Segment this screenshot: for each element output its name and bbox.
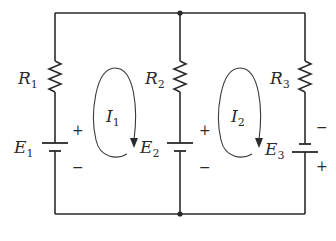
e3-minus-sign: −	[316, 119, 328, 135]
label-r1: R1	[17, 68, 38, 91]
loop-current-i2-arrow-icon	[219, 68, 263, 157]
resistor-r3-icon	[299, 61, 311, 92]
top-junction-dot	[177, 10, 182, 15]
label-r2: R2	[144, 68, 165, 91]
label-i1: I1	[105, 106, 120, 129]
battery-e3-icon	[292, 144, 318, 152]
label-i2: I2	[230, 106, 245, 129]
e2-plus-sign: +	[199, 122, 211, 138]
bottom-junction-dot	[177, 211, 182, 216]
label-e3: E3	[264, 139, 284, 162]
e3-plus-sign: +	[316, 158, 328, 174]
loop-current-i1-arrow-icon	[94, 68, 138, 157]
e2-minus-sign: −	[199, 159, 211, 175]
wires	[55, 13, 305, 214]
label-e2: E2	[139, 137, 159, 160]
e1-plus-sign: +	[72, 122, 84, 138]
circuit-diagram: R1 R2 R3 E1 E2 E3 + − + − − + I1 I2	[0, 0, 336, 241]
resistor-r1-icon	[49, 61, 61, 92]
battery-e1-icon	[42, 143, 68, 151]
battery-e2-icon	[167, 143, 193, 151]
e1-minus-sign: −	[72, 159, 84, 175]
resistor-r2-icon	[174, 61, 186, 92]
label-e1: E1	[13, 137, 33, 160]
label-r3: R3	[269, 68, 290, 91]
